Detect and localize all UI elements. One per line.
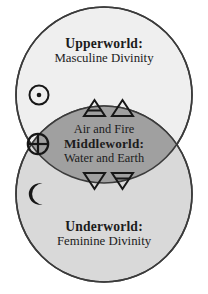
earth-icon (28, 134, 48, 154)
venn-diagram: Upperworld: Masculine Divinity Air and F… (0, 0, 208, 294)
venn-shapes (0, 0, 208, 294)
